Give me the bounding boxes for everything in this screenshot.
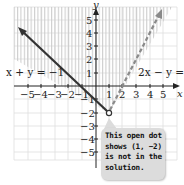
open-dot-icon <box>106 110 111 115</box>
svg-text:3: 3 <box>86 41 92 52</box>
y-axis-label: y <box>92 0 99 10</box>
callout-line: solution. <box>105 163 161 174</box>
annotation-callout: This open dot shows (1, −2) is not in th… <box>101 128 165 180</box>
x-axis-label: x <box>177 88 183 99</box>
equation-label-dashed: 2x − y = 4 <box>138 66 184 78</box>
svg-text:5: 5 <box>160 89 166 100</box>
svg-text:−3: −3 <box>80 121 95 132</box>
equation-label-solid: x + y = −1 <box>6 66 64 78</box>
svg-text:4: 4 <box>86 28 92 39</box>
svg-text:−5: −5 <box>80 147 95 158</box>
svg-text:3: 3 <box>133 89 139 100</box>
callout-line: This open dot <box>105 131 161 142</box>
svg-text:−2: −2 <box>80 108 95 119</box>
svg-text:1: 1 <box>106 89 112 100</box>
svg-text:4: 4 <box>147 89 153 100</box>
svg-text:−2: −2 <box>60 89 75 100</box>
callout-line: is not in the <box>105 152 161 163</box>
svg-text:−4: −4 <box>33 89 48 100</box>
callout-line: shows (1, −2) <box>105 142 161 153</box>
svg-text:5: 5 <box>86 15 92 26</box>
svg-text:−1: −1 <box>80 94 95 105</box>
svg-text:−4: −4 <box>80 134 95 145</box>
svg-text:1: 1 <box>86 68 92 79</box>
svg-text:2: 2 <box>86 54 92 65</box>
